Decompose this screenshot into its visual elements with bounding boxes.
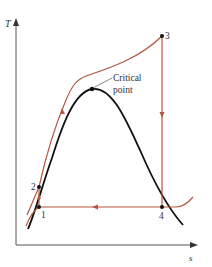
- saturation-dome: [28, 89, 183, 229]
- arrow-down-icon: [160, 112, 165, 118]
- state-label-3: 3: [165, 31, 170, 41]
- x-axis-label: s: [189, 253, 193, 263]
- state-point-1: [37, 205, 41, 209]
- state-label-2: 2: [31, 182, 36, 192]
- state-label-4: 4: [159, 211, 164, 221]
- critical-point-label-line1: Critical: [113, 73, 142, 83]
- y-axis-label: T: [5, 18, 12, 29]
- arrow-left-icon: [92, 205, 98, 210]
- state-label-1: 1: [41, 210, 46, 220]
- critical-point-label-line2: point: [113, 85, 133, 95]
- flow-arrows: [37, 108, 165, 210]
- state-point-2: [37, 185, 41, 189]
- critical-point-leader: [93, 78, 112, 88]
- cycle-path: [26, 36, 193, 226]
- ts-diagram: T s Critical point 1 2 3 4: [0, 0, 212, 267]
- state-point-3: [160, 34, 164, 38]
- state-point-4: [160, 205, 164, 209]
